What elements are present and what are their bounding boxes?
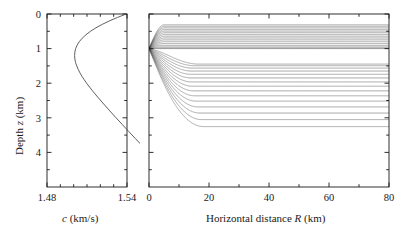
ray-trace-svg: 020406080 <box>140 0 406 238</box>
ray-path <box>149 49 389 120</box>
profile-y-axis-label-prefix: Depth <box>13 125 25 155</box>
ray-path <box>149 44 389 49</box>
profile-y-tick-label: 3 <box>36 113 41 124</box>
ray-trace-panel: 020406080 <box>140 0 406 238</box>
profile-y-axis-label: Depth z (km) <box>13 97 25 155</box>
ray-x-tick-label: 0 <box>146 192 151 203</box>
ray-path <box>149 49 389 65</box>
profile-y-tick-label: 1 <box>36 43 41 54</box>
ray-x-axis-label-units: (km) <box>301 212 325 224</box>
ray-x-tick-label: 80 <box>384 192 395 203</box>
ray-path <box>149 49 389 71</box>
ray-path <box>149 33 389 49</box>
profile-y-tick-label: 4 <box>36 147 42 158</box>
ray-path <box>149 49 389 127</box>
profile-plot-frame <box>47 14 127 187</box>
ray-paths <box>149 25 389 127</box>
profile-y-axis-label-symbol: z <box>13 121 25 125</box>
profile-y-tick-label: 0 <box>36 9 41 20</box>
ray-path <box>149 29 389 48</box>
ray-path <box>149 49 389 96</box>
figure-root: 012341.481.54 020406080 Depth z (km) c (… <box>0 0 406 238</box>
profile-x-axis-label-units: (km/s) <box>70 212 99 224</box>
ray-path <box>149 40 389 49</box>
ray-x-tick-label: 60 <box>324 192 335 203</box>
ray-path <box>149 49 389 69</box>
profile-x-tick-label: 1.48 <box>38 192 56 203</box>
profile-y-axis-label-units: (km) <box>13 97 25 121</box>
ray-x-tick-label: 20 <box>204 192 215 203</box>
ray-x-tick-label: 40 <box>264 192 275 203</box>
profile-x-axis-label-symbol: c <box>62 212 67 224</box>
profile-y-tick-label: 2 <box>36 78 41 89</box>
ray-x-axis-label-prefix: Horizontal distance <box>206 212 295 224</box>
profile-x-axis-label: c (km/s) <box>62 212 98 224</box>
sound-speed-curve <box>75 14 140 178</box>
ray-path <box>149 49 389 82</box>
ray-x-axis-label: Horizontal distance R (km) <box>206 212 325 224</box>
ray-path <box>149 49 389 66</box>
ray-path <box>149 25 389 49</box>
profile-x-tick-label: 1.54 <box>118 192 137 203</box>
ray-path <box>149 49 389 91</box>
